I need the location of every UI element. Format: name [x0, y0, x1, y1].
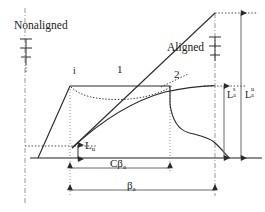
label-segment-1: 1	[117, 64, 123, 75]
label-la-u-subscript: a	[251, 92, 254, 98]
fiber-bridge-icon-nonaligned	[20, 39, 32, 72]
aligned-saturating-curve	[72, 86, 214, 148]
label-la-u-affixes: ua	[251, 88, 256, 98]
label-c-beta-subscript: a	[123, 163, 126, 170]
figure-root: Nonaligned Aligned i 1 2 Lu Cβa βa Lsa L…	[0, 0, 265, 212]
label-lu-subscript: u	[92, 145, 95, 152]
label-la-s: Lsa	[227, 88, 238, 100]
label-lu-base: L	[85, 139, 92, 151]
aligned-rising-line	[72, 13, 215, 148]
label-beta-a: βa	[127, 180, 136, 193]
label-beta-subscript: a	[133, 185, 136, 192]
fiber-bridge-icon-aligned	[209, 37, 221, 61]
label-la-s-affixes: sa	[233, 88, 238, 98]
label-c-beta-a: Cβa	[110, 158, 126, 171]
label-segment-2: 2	[174, 69, 180, 80]
post-peak-drop-curve	[170, 104, 230, 158]
label-c-beta-base: Cβ	[110, 157, 123, 169]
label-lu: Lu	[85, 140, 95, 153]
label-la-s-subscript: a	[233, 92, 236, 98]
guide-lines	[25, 8, 258, 205]
label-segment-i: i	[73, 66, 76, 76]
label-aligned: Aligned	[167, 42, 204, 54]
label-la-u: Lua	[245, 88, 256, 100]
label-nonaligned: Nonaligned	[14, 20, 68, 32]
nonaligned-dotted-dip-curve	[71, 86, 172, 100]
curve-group	[38, 13, 230, 158]
